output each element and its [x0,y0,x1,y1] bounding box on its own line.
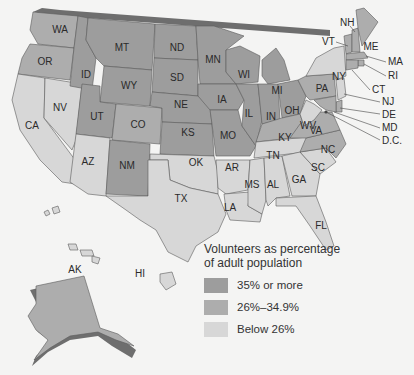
label-sd: SD [170,72,184,83]
label-md: MD [382,122,398,133]
label-hi: HI [135,268,145,279]
label-tx: TX [175,193,188,204]
legend-label-high: 35% or more [237,279,303,291]
label-nm: NM [119,160,135,171]
label-id: ID [81,69,91,80]
label-wa: WA [52,24,68,35]
label-nv: NV [53,102,67,113]
label-mo: MO [220,130,236,141]
label-ri: RI [388,70,398,81]
label-ks: KS [181,127,195,138]
state-ri[interactable] [358,60,364,66]
label-oh: OH [285,105,300,116]
legend-item-mid: 26%–34.9% [204,296,404,318]
legend-swatch-mid [204,300,228,315]
label-ne: NE [174,99,188,110]
label-mi: MI [271,85,282,96]
label-me: ME [364,41,379,52]
label-fl: FL [315,220,327,231]
label-ky: KY [278,132,292,143]
label-la: LA [224,202,237,213]
label-pa: PA [316,83,329,94]
label-wv: WV [300,120,316,131]
label-al: AL [267,179,280,190]
label-ar: AR [225,162,239,173]
label-co: CO [131,119,146,130]
label-ga: GA [292,174,307,185]
label-ms: MS [245,179,260,190]
label-wy: WY [121,80,137,91]
label-dc: D.C. [382,135,402,146]
state-mi[interactable] [262,48,290,84]
legend-label-low: Below 26% [237,323,295,335]
label-sc: SC [311,162,325,173]
label-or: OR [38,56,53,67]
state-de[interactable] [336,100,342,112]
label-mn: MN [205,54,221,65]
label-nh: NH [340,17,354,28]
legend-item-low: Below 26% [204,318,404,340]
legend-label-mid: 26%–34.9% [237,301,299,313]
label-ca: CA [25,120,39,131]
legend-swatch-low [204,322,228,337]
state-ct[interactable] [346,60,358,70]
legend-title-line1: Volunteers as percentage [204,242,404,256]
label-nd: ND [170,42,184,53]
label-il: IL [245,108,254,119]
label-ma: MA [388,56,403,67]
label-nj: NJ [382,96,394,107]
map-legend: Volunteers as percentage of adult popula… [204,242,404,340]
legend-swatch-high [204,278,228,293]
legend-item-high: 35% or more [204,274,404,296]
label-ia: IA [217,94,227,105]
legend-title: Volunteers as percentage of adult popula… [204,242,404,270]
legend-title-line2: of adult population [204,256,404,270]
label-az: AZ [82,156,95,167]
label-ct: CT [372,84,385,95]
state-vt[interactable] [344,34,352,54]
label-ak: AK [68,264,82,275]
label-de: DE [382,109,396,120]
label-ut: UT [90,111,103,122]
label-vt: VT [322,36,335,47]
label-ny: NY [332,71,346,82]
label-tn: TN [266,150,279,161]
label-nc: NC [321,144,335,155]
label-in: IN [266,111,276,122]
label-mt: MT [115,42,129,53]
label-wi: WI [238,69,250,80]
label-ok: OK [189,157,204,168]
